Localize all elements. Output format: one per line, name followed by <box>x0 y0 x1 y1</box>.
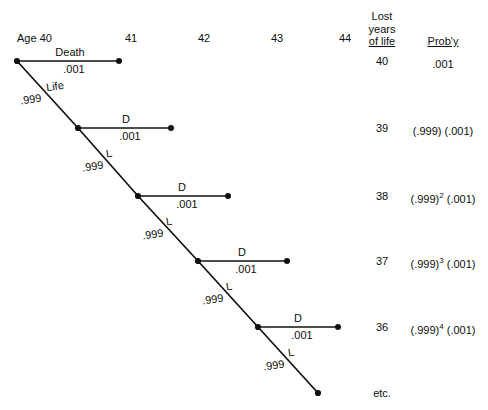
branch-label-life-3-text: L <box>225 280 233 293</box>
branch-label-life-1: L <box>106 147 112 159</box>
probability-value-2-tail: (.001) <box>444 193 476 205</box>
branch-label-death-3: D <box>238 246 246 258</box>
branch-label-death-2: D <box>178 181 186 193</box>
probability-column-header: Prob'y <box>428 35 459 48</box>
branch-label-life-3: L <box>226 280 232 292</box>
death-endpoint-2 <box>225 193 231 199</box>
node-marker-age-40 <box>14 58 20 64</box>
lost-years-value-2: 38 <box>376 190 388 202</box>
axis-tick-44: 44 <box>339 32 351 44</box>
lost-years-header-line-1: Lost <box>369 10 396 23</box>
branch-label-life-0-text: Life <box>45 79 64 93</box>
death-endpoint-4 <box>335 324 341 330</box>
branch-prob-life-1: .999 <box>82 160 103 172</box>
probability-value-1: (.999) (.001) <box>413 122 474 137</box>
branch-prob-life-3: .999 <box>202 293 223 305</box>
probability-value-4-base: (.999) <box>411 324 440 336</box>
branch-label-death-4: D <box>294 312 302 324</box>
probability-value-1-base: (.999) <box>413 125 442 137</box>
lost-years-header-line-3: of life <box>369 35 396 48</box>
branch-prob-death-3: .001 <box>235 263 256 275</box>
tree-line-art <box>0 0 488 410</box>
axis-tick-41: 41 <box>125 32 137 44</box>
branch-label-life-4: L <box>288 346 294 358</box>
branch-label-death-0: Death <box>55 46 84 58</box>
axis-tick-age-40: Age 40 <box>17 32 52 44</box>
branch-prob-life-4: .999 <box>263 359 284 371</box>
branch-label-life-2-text: L <box>165 215 173 228</box>
probability-value-4-tail: (.001) <box>444 324 476 336</box>
lost-years-value-3: 37 <box>376 255 388 267</box>
death-endpoint-3 <box>284 258 290 264</box>
probability-value-2-base: (.999) <box>411 193 440 205</box>
branch-label-life-0: Life <box>46 80 64 92</box>
lost-years-column-header: Lost years of life <box>369 10 396 48</box>
node-marker-age-42 <box>135 193 141 199</box>
branch-prob-life-0-text: .999 <box>19 92 42 107</box>
branch-prob-death-4: .001 <box>291 329 312 341</box>
branch-label-life-1-text: L <box>105 147 113 160</box>
branch-prob-life-2: .999 <box>142 228 163 240</box>
probability-value-4: (.999)4 (.001) <box>411 321 476 336</box>
probability-value-0-base: .001 <box>432 58 453 70</box>
branch-prob-life-0: .999 <box>20 93 41 105</box>
probability-value-1-tail: (.001) <box>441 125 473 137</box>
lost-years-value-1: 39 <box>376 122 388 134</box>
etc-label: etc. <box>373 387 391 399</box>
death-endpoint-0 <box>116 58 122 64</box>
branch-label-death-1: D <box>122 113 130 125</box>
lost-years-header-line-2: years <box>369 23 396 36</box>
branch-label-life-4-text: L <box>287 346 295 359</box>
node-marker-terminal <box>315 390 321 396</box>
node-marker-age-41 <box>75 125 81 131</box>
branch-prob-life-4-text: .999 <box>262 358 285 373</box>
probability-tree-figure: Age 40 41 42 43 44 Lost years of life Pr… <box>0 0 488 410</box>
probability-value-0: .001 <box>432 55 453 70</box>
branch-prob-death-0: .001 <box>63 63 84 75</box>
node-marker-age-44 <box>255 324 261 330</box>
axis-tick-42: 42 <box>198 32 210 44</box>
branch-prob-life-1-text: .999 <box>81 159 104 174</box>
branch-prob-life-3-text: .999 <box>201 292 224 307</box>
branch-prob-life-2-text: .999 <box>141 227 164 242</box>
lost-years-value-0: 40 <box>376 55 388 67</box>
node-marker-age-43 <box>195 258 201 264</box>
probability-value-2: (.999)2 (.001) <box>411 190 476 205</box>
lost-years-value-4: 36 <box>376 321 388 333</box>
branch-label-life-2: L <box>166 215 172 227</box>
death-endpoint-1 <box>168 125 174 131</box>
probability-value-3: (.999)3 (.001) <box>411 255 476 270</box>
axis-tick-43: 43 <box>271 32 283 44</box>
probability-value-3-base: (.999) <box>411 258 440 270</box>
branch-prob-death-2: .001 <box>176 198 197 210</box>
probability-value-3-tail: (.001) <box>444 258 476 270</box>
branch-prob-death-1: .001 <box>119 130 140 142</box>
